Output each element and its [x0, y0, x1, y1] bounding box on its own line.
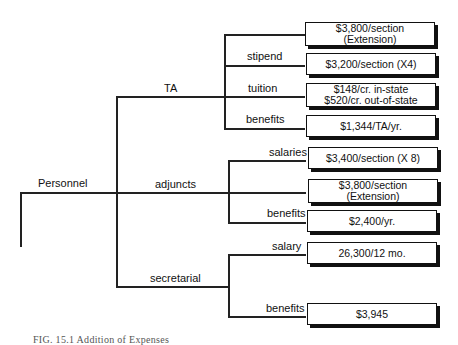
branch-label-secretarial: secretarial [150, 272, 201, 284]
value-box-adjuncts-extension: $3,800/section (Extension) [308, 179, 438, 203]
secretarial-child-line-1 [228, 316, 306, 318]
value-text: $1,344/TA/yr. [340, 121, 402, 132]
secretarial-child-line-0 [228, 254, 306, 256]
root-stem [20, 192, 22, 247]
secretarial-spine [228, 254, 230, 317]
value-box-ta-stipend: $3,200/section (X4) [306, 53, 436, 75]
figure-caption: FIG. 15.1 Addition of Expenses [33, 334, 169, 345]
branch-label-ta: TA [164, 82, 177, 94]
value-text: $3,945 [356, 309, 388, 320]
adjuncts-spine [228, 160, 230, 223]
branch-line-secretarial [116, 286, 228, 288]
value-box-adjuncts-salaries: $3,400/section (X 8) [308, 147, 438, 169]
value-text: (Extension) [346, 191, 399, 202]
value-text: $3,200/section (X4) [325, 59, 416, 70]
root-label: Personnel [38, 177, 88, 189]
child-label-stipend: stipend [247, 50, 282, 62]
value-text: (Extension) [343, 34, 396, 45]
root-line [20, 192, 116, 194]
child-label-tuition: tuition [248, 82, 277, 94]
value-text: $2,400/yr. [349, 216, 395, 227]
branch-line-ta [116, 96, 224, 98]
value-box-ta-benefits: $1,344/TA/yr. [306, 115, 436, 137]
value-box-ta-tuition: $148/cr. in-state $520/cr. out-of-state [306, 83, 436, 107]
ta-child-line-2 [224, 96, 305, 98]
ta-child-line-1 [224, 65, 305, 67]
branch-line-adjuncts [116, 192, 306, 194]
ta-child-line-0 [224, 34, 305, 36]
branch-label-adjuncts: adjuncts [155, 178, 196, 190]
child-label-salaries: salaries [269, 146, 307, 158]
ta-child-line-3 [224, 128, 305, 130]
value-box-ta-extension: $3,800/section (Extension) [305, 22, 435, 46]
child-label-ta-benefits: benefits [246, 113, 285, 125]
child-label-secretarial-benefits: benefits [266, 302, 305, 314]
value-box-adjuncts-benefits: $2,400/yr. [307, 210, 437, 232]
child-label-adjuncts-benefits: benefits [267, 207, 306, 219]
value-text: 26,300/12 mo. [338, 248, 405, 259]
value-box-secretarial-salary: 26,300/12 mo. [307, 242, 437, 264]
ta-spine [224, 34, 226, 129]
value-text: $3,400/section (X 8) [326, 153, 420, 164]
value-text: $520/cr. out-of-state [324, 95, 417, 106]
child-label-salary: salary [272, 240, 301, 252]
value-box-secretarial-benefits: $3,945 [307, 303, 437, 325]
adjuncts-child-line-0 [228, 160, 306, 162]
adjuncts-child-line-2 [228, 222, 306, 224]
